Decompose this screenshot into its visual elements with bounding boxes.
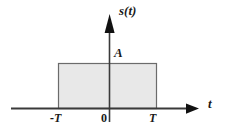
x-tick-label-t: T: [149, 112, 156, 124]
x-tick-label-origin: 0: [101, 112, 107, 124]
x-tick-label-negative-t: -T: [50, 112, 61, 124]
amplitude-label: A: [114, 46, 123, 59]
x-axis-label: t: [208, 97, 212, 110]
y-axis-label: s(t): [119, 4, 136, 17]
signal-pulse-figure: s(t) t A -T 0 T: [0, 0, 228, 134]
y-axis-arrowhead-icon: [105, 14, 115, 33]
pulse-rectangle: [59, 64, 157, 109]
x-axis-arrowhead-icon: [186, 104, 199, 114]
figure-canvas: [0, 0, 228, 134]
